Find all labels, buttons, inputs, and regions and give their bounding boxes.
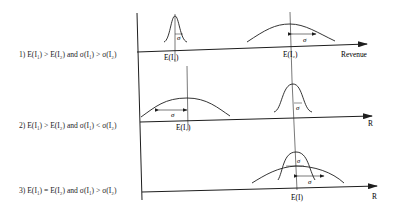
case-1-plot: σ σ E(I₁) E(I₂) Revenue bbox=[137, 12, 368, 80]
case-1-curve-narrow bbox=[164, 16, 187, 42]
case-3-sigma-1: σ bbox=[297, 157, 301, 164]
case-2-axis-label: R bbox=[368, 119, 373, 128]
case-2-mean-label: E(I₁) bbox=[176, 123, 191, 132]
case-2-sigma-1: σ bbox=[171, 111, 175, 119]
case-1-sigma-1: σ bbox=[177, 34, 181, 42]
case-3-sigma-2: σ bbox=[308, 178, 312, 186]
case-1-axis-label: Revenue bbox=[341, 50, 368, 59]
case-1-sigma-2: σ bbox=[303, 36, 307, 44]
case-3-axis-label: R bbox=[372, 192, 377, 201]
case-2-x-axis bbox=[140, 116, 372, 122]
y-axis bbox=[137, 13, 142, 200]
case-2-plot: σ σ E(I₁) R bbox=[140, 66, 373, 132]
case-1-mean-label-1: E(I₁) bbox=[164, 53, 179, 62]
case-3-mean-label: E(I) bbox=[291, 193, 303, 202]
case-1-mean-line-2 bbox=[290, 12, 292, 80]
case-2-sigma-2: σ bbox=[296, 104, 300, 112]
case-2-curve-wide bbox=[141, 98, 230, 117]
case-3-x-axis bbox=[142, 186, 377, 192]
distribution-diagram: σ σ E(I₁) E(I₂) Revenue σ σ E(I₁) R σ bbox=[0, 0, 393, 215]
case-3-mean-line bbox=[292, 80, 297, 190]
case-3-curve-wide bbox=[252, 166, 344, 183]
case-1-mean-label-2: E(I₂) bbox=[283, 50, 298, 59]
case-1-x-axis bbox=[137, 44, 367, 52]
